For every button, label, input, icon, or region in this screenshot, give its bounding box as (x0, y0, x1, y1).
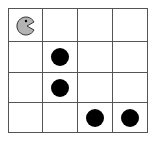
grid-cell (43, 9, 78, 42)
pacman-icon (16, 16, 36, 36)
grid-cell (9, 103, 43, 133)
grid-cell (43, 73, 78, 103)
grid-cell (113, 42, 148, 73)
game-board (8, 8, 148, 133)
grid-cell (43, 103, 78, 133)
grid-cell (78, 73, 113, 103)
grid-cell (113, 9, 148, 42)
pellet-dot (51, 79, 69, 97)
pellet-dot (121, 109, 139, 127)
grid-cell (9, 9, 43, 42)
grid-cell (9, 42, 43, 73)
grid-cell (9, 73, 43, 103)
pellet-dot (86, 109, 104, 127)
grid-cell (43, 42, 78, 73)
grid-cell (113, 103, 148, 133)
pellet-dot (51, 48, 69, 66)
grid-cell (113, 73, 148, 103)
grid-cell (78, 42, 113, 73)
grid-cell (78, 103, 113, 133)
grid-cell (78, 9, 113, 42)
